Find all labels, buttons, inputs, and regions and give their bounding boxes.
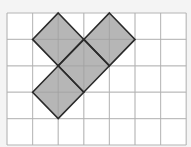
- grid-diagram: [0, 0, 191, 147]
